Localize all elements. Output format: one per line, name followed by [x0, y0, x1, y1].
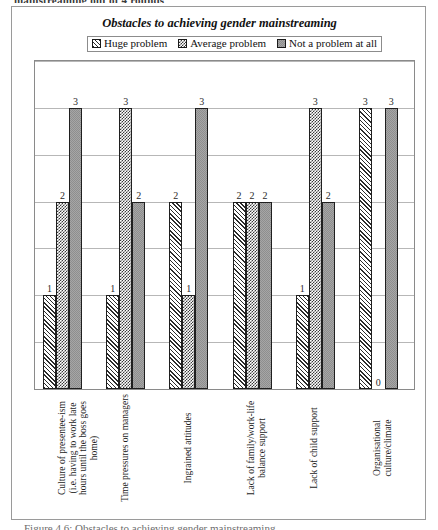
bar[interactable]	[169, 202, 182, 389]
bar[interactable]	[309, 108, 322, 389]
legend-item-average-problem: Average problem	[178, 38, 266, 49]
bar-slot: 3	[195, 61, 208, 389]
bar[interactable]	[182, 295, 195, 389]
bar[interactable]	[132, 202, 145, 389]
category-label: Lack of child support	[309, 393, 320, 503]
bar-slot: 1	[43, 61, 56, 389]
legend-item-huge-problem: Huge problem	[92, 38, 167, 49]
bar-slot: 3	[359, 61, 372, 389]
bar[interactable]	[259, 202, 272, 389]
bar-group: 222	[233, 61, 288, 389]
legend-swatch-hatch-icon	[92, 39, 101, 48]
chart-legend: Huge problem Average problem Not a probl…	[87, 36, 382, 52]
bar-group: 303	[359, 61, 414, 389]
bar[interactable]	[322, 202, 335, 389]
bar[interactable]	[69, 108, 82, 389]
bar-slot: 3	[385, 61, 398, 389]
bar-slot: 0	[372, 61, 385, 389]
bottom-caption-text: Figure 4.6: Obstacles to achieving gende…	[24, 522, 434, 530]
bar-group: 132	[106, 61, 161, 389]
bar-slot: 2	[322, 61, 335, 389]
category-label: Organisational culture/climate	[372, 393, 393, 503]
plot-area: 123132213222132303	[34, 60, 415, 390]
bar-value-label: 3	[191, 97, 213, 107]
category-label: Lack of family/work-life balance support	[246, 393, 267, 503]
bar[interactable]	[233, 202, 246, 389]
bar-slot: 1	[296, 61, 309, 389]
bar[interactable]	[195, 108, 208, 389]
bar[interactable]	[43, 295, 56, 389]
category-axis-labels: Culture of presentee-ism (i.e. having to…	[34, 393, 415, 513]
bar-slot: 3	[69, 61, 82, 389]
bar-slot: 2	[259, 61, 272, 389]
category-label: Time pressures on managers	[120, 393, 131, 503]
bar-value-label: 3	[380, 97, 402, 107]
bar-slot: 1	[182, 61, 195, 389]
bar[interactable]	[246, 202, 259, 389]
bar[interactable]	[296, 295, 309, 389]
legend-item-not-a-problem: Not a problem at all	[277, 38, 377, 49]
bar-value-label: 2	[128, 191, 150, 201]
bar-group: 213	[169, 61, 224, 389]
bar-value-label: 2	[317, 191, 339, 201]
bar-group: 123	[43, 61, 98, 389]
bar-slot: 2	[246, 61, 259, 389]
legend-swatch-solid-icon	[277, 39, 286, 48]
legend-label-average-problem: Average problem	[190, 38, 266, 49]
bar-group: 132	[296, 61, 351, 389]
legend-label-huge-problem: Huge problem	[104, 38, 167, 49]
bar-value-label: 2	[254, 191, 276, 201]
bar[interactable]	[106, 295, 119, 389]
category-label: Culture of presentee-ism (i.e. having to…	[57, 393, 99, 503]
bar-value-label: 3	[65, 97, 87, 107]
category-label: Ingrained attitudes	[183, 393, 194, 503]
bar-slot: 2	[56, 61, 69, 389]
bar[interactable]	[359, 108, 372, 389]
bar-slot: 3	[119, 61, 132, 389]
legend-label-not-a-problem: Not a problem at all	[289, 38, 377, 49]
bar[interactable]	[119, 108, 132, 389]
top-caption-text: mainstreaming out of 4 rounds	[14, 0, 434, 3]
bar[interactable]	[56, 202, 69, 389]
legend-swatch-checker-icon	[178, 39, 187, 48]
chart-title: Obstacles to achieving gender mainstream…	[12, 16, 427, 31]
figure-frame: Obstacles to achieving gender mainstream…	[11, 6, 426, 520]
bar[interactable]	[385, 108, 398, 389]
bar-slot: 2	[132, 61, 145, 389]
bar-slot: 2	[233, 61, 246, 389]
bar-slot: 3	[309, 61, 322, 389]
bar-slot: 2	[169, 61, 182, 389]
bar-slot: 1	[106, 61, 119, 389]
bars-layer: 123132213222132303	[35, 61, 414, 389]
